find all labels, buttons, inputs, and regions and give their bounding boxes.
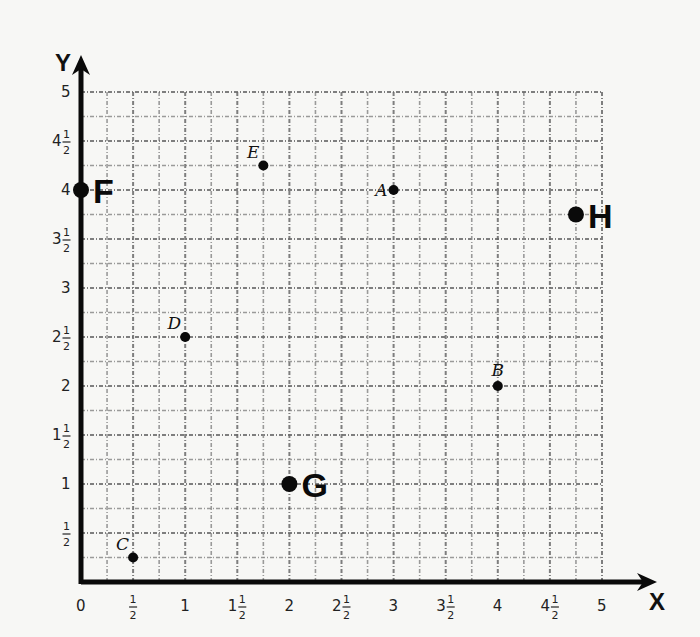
tick-label: 212 <box>52 324 71 353</box>
point-marker-icon <box>73 182 89 198</box>
svg-text:4: 4 <box>540 597 550 615</box>
svg-text:1: 1 <box>239 593 246 606</box>
tick-label: 112 <box>52 422 71 451</box>
svg-text:3: 3 <box>389 597 399 615</box>
svg-text:2: 2 <box>447 609 454 622</box>
point-marker-icon <box>180 332 190 342</box>
svg-text:1: 1 <box>343 593 350 606</box>
grid <box>81 92 602 582</box>
point-label: F <box>93 172 114 210</box>
svg-text:4: 4 <box>61 181 71 199</box>
tick-label: 12 <box>63 520 71 549</box>
svg-text:2: 2 <box>63 340 70 353</box>
tick-label: 212 <box>332 593 351 622</box>
svg-text:2: 2 <box>239 609 246 622</box>
tick-label: 1 <box>180 597 190 615</box>
point-marker-icon <box>258 161 268 171</box>
svg-text:2: 2 <box>130 609 137 622</box>
point-a: A <box>373 180 398 200</box>
point-label: A <box>373 180 387 200</box>
svg-text:3: 3 <box>436 597 446 615</box>
svg-text:1: 1 <box>228 597 238 615</box>
y-axis-label: Y <box>55 49 71 76</box>
svg-text:2: 2 <box>332 597 342 615</box>
svg-text:1: 1 <box>61 475 71 493</box>
svg-text:5: 5 <box>61 83 71 101</box>
tick-label: 2 <box>61 377 71 395</box>
svg-text:2: 2 <box>52 328 62 346</box>
point-label: D <box>167 313 182 333</box>
svg-text:5: 5 <box>597 597 607 615</box>
svg-text:2: 2 <box>61 377 71 395</box>
svg-text:2: 2 <box>63 242 70 255</box>
tick-label: 5 <box>597 597 607 615</box>
y-axis-tick-labels: 1211122212331244125 <box>52 83 71 549</box>
tick-label: 412 <box>540 593 559 622</box>
tick-label: 5 <box>61 83 71 101</box>
svg-text:1: 1 <box>180 597 190 615</box>
svg-text:1: 1 <box>63 422 70 435</box>
svg-text:2: 2 <box>63 438 70 451</box>
svg-text:1: 1 <box>63 226 70 239</box>
axes: XY <box>55 49 665 615</box>
svg-text:4: 4 <box>493 597 503 615</box>
svg-text:2: 2 <box>343 609 350 622</box>
point-label: H <box>588 197 613 235</box>
svg-text:1: 1 <box>63 324 70 337</box>
coordinate-plane: XY 01211122212331244125 1211122212331244… <box>0 0 700 637</box>
svg-text:1: 1 <box>130 593 137 606</box>
tick-label: 0 <box>76 597 86 615</box>
x-axis-label: X <box>649 588 665 615</box>
coordinate-plane-figure: XY 01211122212331244125 1211122212331244… <box>0 0 700 637</box>
tick-label: 112 <box>228 593 247 622</box>
svg-text:3: 3 <box>61 279 71 297</box>
svg-text:2: 2 <box>284 597 294 615</box>
svg-text:1: 1 <box>447 593 454 606</box>
point-g: G <box>281 466 327 504</box>
svg-text:1: 1 <box>551 593 558 606</box>
tick-label: 312 <box>436 593 455 622</box>
svg-text:1: 1 <box>63 128 70 141</box>
svg-text:3: 3 <box>52 230 62 248</box>
tick-label: 1 <box>61 475 71 493</box>
point-label: C <box>116 534 129 554</box>
svg-text:4: 4 <box>52 132 62 150</box>
svg-text:2: 2 <box>63 144 70 157</box>
svg-text:2: 2 <box>63 536 70 549</box>
tick-label: 312 <box>52 226 71 255</box>
point-label: G <box>301 466 327 504</box>
tick-label: 3 <box>389 597 399 615</box>
point-label: E <box>246 142 260 162</box>
x-axis-tick-labels: 01211122212331244125 <box>76 593 607 622</box>
point-d: D <box>167 313 191 342</box>
svg-text:2: 2 <box>551 609 558 622</box>
point-marker-icon <box>128 553 138 563</box>
svg-text:0: 0 <box>76 597 86 615</box>
tick-label: 4 <box>61 181 71 199</box>
tick-label: 2 <box>284 597 294 615</box>
plotted-points: ABCDEFGH <box>73 142 613 563</box>
tick-label: 3 <box>61 279 71 297</box>
tick-label: 12 <box>129 593 137 622</box>
svg-text:1: 1 <box>52 426 62 444</box>
point-h: H <box>568 197 613 235</box>
point-label: B <box>491 360 505 380</box>
svg-text:1: 1 <box>63 520 70 533</box>
point-marker-icon <box>389 185 399 195</box>
point-marker-icon <box>568 207 584 223</box>
point-marker-icon <box>493 381 503 391</box>
tick-label: 412 <box>52 128 71 157</box>
point-marker-icon <box>281 476 297 492</box>
tick-label: 4 <box>493 597 503 615</box>
